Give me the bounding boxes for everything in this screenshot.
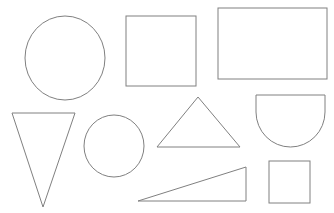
shape-canvas <box>0 0 334 213</box>
shape-sheet <box>0 0 334 213</box>
sheet-background <box>0 0 334 213</box>
